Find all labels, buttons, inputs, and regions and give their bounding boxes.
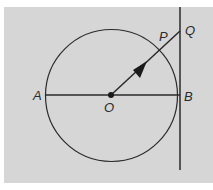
center-point-o xyxy=(108,92,114,98)
label-b: B xyxy=(184,89,193,104)
label-o: O xyxy=(104,100,114,115)
label-a: A xyxy=(32,88,42,103)
label-q: Q xyxy=(185,23,195,38)
arrowhead-icon xyxy=(133,61,147,78)
geometry-diagram: A O B P Q xyxy=(0,0,213,190)
label-p: P xyxy=(159,29,168,44)
